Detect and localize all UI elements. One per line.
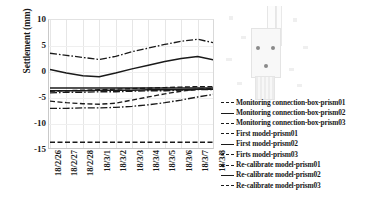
legend-item-label: Monitoring connection-box-prism01 — [236, 98, 345, 107]
legend-item[interactable]: Monitoring connection-box-prism02 — [221, 107, 365, 117]
y-tick-neg10: -10 — [20, 119, 46, 128]
series-canvas — [49, 20, 214, 149]
legend-line-sample-icon — [221, 129, 234, 137]
legend-item-label: Firts model-prism03 — [236, 150, 298, 159]
series-line-1 — [50, 56, 214, 76]
legend-item-label: Re-calibrate model-prism02 — [236, 170, 321, 179]
legend-item[interactable]: Re-calibrate model-prism01 — [221, 159, 365, 169]
legend-item-label: First model-prism02 — [236, 139, 298, 148]
y-tick-10: 10 — [20, 15, 46, 24]
box-body — [251, 28, 281, 78]
x-tick-2: 18/2/28 — [85, 150, 95, 196]
legend-item-label: Monitoring connection-box-prism03 — [236, 118, 345, 127]
legend-line-sample-icon — [221, 109, 234, 117]
prism-marker-02 — [256, 46, 260, 50]
legend-line-sample-icon — [221, 181, 234, 189]
legend-line-sample-icon — [221, 171, 234, 179]
x-tick-7: 18/3/5 — [167, 150, 177, 196]
y-tick-5: 5 — [20, 41, 46, 50]
legend: Monitoring connection-box-prism01Monitor… — [221, 97, 365, 191]
legend-line-sample-icon — [221, 119, 234, 127]
y-tick-neg5: -5 — [20, 93, 46, 102]
legend-line-sample-icon — [221, 140, 234, 148]
connection-box-photo — [223, 6, 315, 98]
y-tick-0: 0 — [20, 67, 46, 76]
legend-item[interactable]: First model-prism01 — [221, 128, 365, 138]
legend-item-label: Monitoring connection-box-prism02 — [236, 108, 345, 117]
x-tick-0: 18/2/26 — [53, 150, 63, 196]
legend-item[interactable]: Monitoring connection-box-prism03 — [221, 118, 365, 128]
legend-item[interactable]: Re-calibrate model-prism03 — [221, 180, 365, 190]
y-tick-neg15: -15 — [20, 145, 46, 154]
series-line-6 — [50, 94, 214, 108]
x-axis-tick-labels: 18/2/2618/2/2718/2/2818/3/118/3/218/3/31… — [48, 150, 214, 198]
x-tick-4: 18/3/2 — [118, 150, 128, 196]
legend-line-sample-icon — [221, 150, 234, 158]
x-tick-1: 18/2/27 — [69, 150, 79, 196]
x-tick-6: 18/3/4 — [151, 150, 161, 196]
prism-marker-03 — [271, 46, 275, 50]
x-tick-5: 18/3/3 — [135, 150, 145, 196]
legend-item[interactable]: Monitoring connection-box-prism01 — [221, 97, 365, 107]
legend-line-sample-icon — [221, 161, 234, 169]
legend-item-label: Re-calibrate model-prism03 — [236, 181, 321, 190]
x-tick-9: 18/3/7 — [200, 150, 210, 196]
series-line-0 — [50, 39, 214, 59]
legend-item[interactable]: Re-calibrate model-prism02 — [221, 170, 365, 180]
y-axis-tick-labels: 1050-5-10-15 — [18, 0, 46, 198]
legend-item[interactable]: Firts model-prism03 — [221, 149, 365, 159]
x-tick-3: 18/3/1 — [102, 150, 112, 196]
legend-item-label: Re-calibrate model-prism01 — [236, 160, 321, 169]
x-tick-8: 18/3/6 — [184, 150, 194, 196]
legend-item-label: First model-prism01 — [236, 129, 298, 138]
plot-area — [48, 19, 214, 149]
legend-line-sample-icon — [221, 98, 234, 106]
prism-marker-01 — [264, 64, 268, 68]
chart-figure: Settlement (mm) 1050-5-10-15 18/2/2618/2… — [0, 0, 365, 198]
legend-item[interactable]: First model-prism02 — [221, 139, 365, 149]
